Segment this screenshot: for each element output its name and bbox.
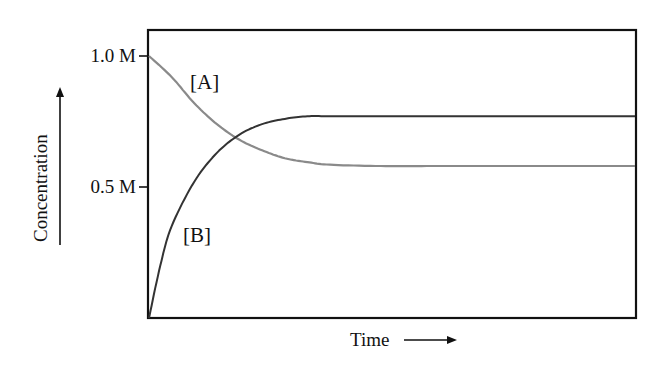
equilibrium-chart: 1.0 M 0.5 M [A] [B] Concentration Time: [0, 0, 666, 370]
y-tick-label-0-5: 0.5 M: [91, 176, 137, 197]
series-b-label: [B]: [183, 223, 211, 247]
x-axis-arrow-icon: [404, 336, 457, 344]
y-axis-label: Concentration: [30, 134, 51, 242]
y-tick-label-1-0: 1.0 M: [91, 45, 137, 66]
series-a-line: [149, 56, 635, 166]
x-axis-label: Time: [350, 329, 389, 350]
series-a-label: [A]: [190, 70, 219, 94]
plot-frame: [148, 30, 636, 318]
y-axis-arrow-icon: [56, 87, 64, 245]
series-b-line: [149, 116, 635, 318]
